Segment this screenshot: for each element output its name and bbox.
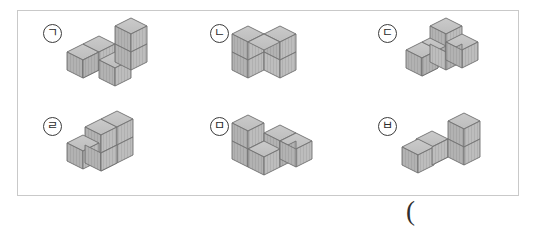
figure-label-nieun: ㄴ [210, 24, 229, 43]
figure-label-digeut: ㄷ [378, 24, 397, 43]
cube-figure-digeut [396, 12, 518, 102]
figure-item-1: ㄱ [17, 10, 184, 103]
figure-item-5: ㅁ [184, 103, 351, 196]
cube-figure-mieum [228, 105, 350, 195]
figure-label-giyeok: ㄱ [43, 24, 62, 43]
figure-label-rieul: ㄹ [43, 117, 62, 136]
figure-grid: ㄱ [17, 10, 519, 196]
figure-item-3: ㄷ [352, 10, 519, 103]
worksheet-scan: ㄱ [0, 0, 537, 234]
figure-label-bieup: ㅂ [378, 117, 397, 136]
figure-item-2: ㄴ [184, 10, 351, 103]
figure-label-mieum: ㅁ [210, 117, 229, 136]
figure-item-4: ㄹ [17, 103, 184, 196]
cube-figure-rieul [61, 105, 183, 195]
cube-figure-nieun [228, 12, 350, 102]
cube-figure-giyeok [61, 12, 183, 102]
figure-item-6: ㅂ [352, 103, 519, 196]
cube-figure-bieup [396, 105, 518, 195]
trailing-paren: ( [406, 196, 415, 226]
